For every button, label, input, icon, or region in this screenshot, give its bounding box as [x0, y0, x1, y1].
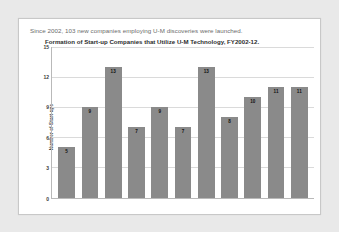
bar-slot: 7	[125, 47, 148, 198]
bar[interactable]: 8	[221, 117, 238, 198]
slide-headline: Since 2002, 103 new companies employing …	[30, 27, 315, 35]
bar-slot: 9	[78, 47, 101, 198]
bar-value-label: 9	[158, 109, 161, 114]
y-axis-tick-label: 9	[35, 104, 49, 110]
bar-series: 5913797138101111	[52, 47, 314, 198]
bar-value-label: 7	[135, 129, 138, 134]
bar[interactable]: 9	[151, 107, 168, 198]
bar-slot: 13	[102, 47, 125, 198]
bar-value-label: 7	[182, 129, 185, 134]
bar-slot: 13	[195, 47, 218, 198]
bar[interactable]: 7	[128, 127, 145, 197]
bar-slot: 8	[218, 47, 241, 198]
chart-area: Number of Start-ups 03691215 59137971381…	[27, 47, 314, 208]
bar-slot: 5	[55, 47, 78, 198]
bar-value-label: 5	[65, 149, 68, 154]
bar-slot: 11	[288, 47, 311, 198]
bar-value-label: 11	[274, 89, 279, 94]
bar-value-label: 9	[89, 109, 92, 114]
slide-card: Since 2002, 103 new companies employing …	[18, 18, 321, 215]
bar[interactable]: 5	[58, 147, 75, 197]
y-axis-tick-label: 12	[35, 74, 49, 80]
bar-value-label: 13	[204, 69, 209, 74]
bar[interactable]: 11	[291, 87, 308, 198]
bar-slot: 7	[171, 47, 194, 198]
bar-value-label: 8	[228, 119, 231, 124]
y-axis-tick-label: 0	[35, 196, 49, 202]
bar[interactable]: 13	[105, 67, 122, 198]
bar-slot: 9	[148, 47, 171, 198]
bar[interactable]: 9	[82, 107, 99, 198]
bar[interactable]: 11	[268, 87, 285, 198]
bar-value-label: 11	[297, 89, 302, 94]
y-axis-tick-label: 3	[35, 165, 49, 171]
bar-value-label: 10	[250, 99, 255, 104]
y-axis-ticks: 03691215	[35, 47, 49, 199]
chart-title: Formation of Start-up Companies that Uti…	[45, 38, 317, 46]
bar[interactable]: 13	[198, 67, 215, 198]
plot-area: 5913797138101111	[51, 47, 314, 199]
bar-slot: 10	[241, 47, 264, 198]
bar[interactable]: 7	[175, 127, 192, 197]
y-axis-tick-label: 6	[35, 135, 49, 141]
y-axis-tick-label: 15	[35, 44, 49, 50]
bar[interactable]: 10	[244, 97, 261, 198]
bar-value-label: 13	[111, 69, 116, 74]
bar-slot: 11	[264, 47, 287, 198]
